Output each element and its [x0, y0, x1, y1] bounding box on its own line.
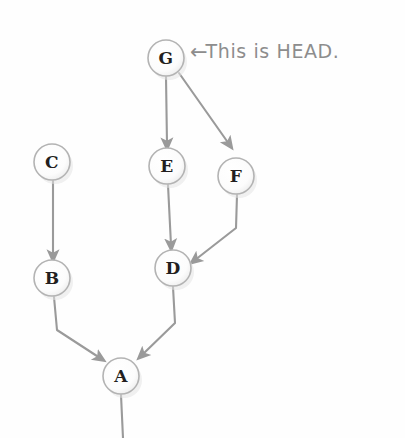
edge-a-tail	[121, 395, 123, 438]
edge-f-to-d	[195, 195, 237, 260]
head-annotation-text: This is HEAD.	[206, 40, 340, 62]
node-a-label: A	[113, 366, 128, 386]
left-arrow-icon: ←	[190, 40, 205, 64]
node-b-label: B	[45, 268, 60, 288]
node-b[interactable]: B	[34, 260, 73, 300]
node-a[interactable]: A	[103, 358, 142, 398]
node-f-label: F	[230, 166, 242, 186]
diagram-canvas: G C E F B	[0, 0, 405, 438]
node-e[interactable]: E	[149, 148, 188, 188]
edge-e-to-d	[168, 185, 171, 245]
edge-g-to-f	[179, 73, 229, 144]
node-g[interactable]: G	[148, 40, 187, 80]
commit-graph: G C E F B	[0, 0, 405, 438]
edge-layer	[53, 73, 237, 438]
node-c-label: C	[45, 152, 59, 172]
node-g-label: G	[159, 48, 174, 68]
node-f[interactable]: F	[218, 158, 257, 198]
edge-g-to-e	[166, 77, 167, 144]
edge-d-to-a	[142, 287, 175, 355]
node-layer: G C E F B	[34, 40, 257, 398]
node-d[interactable]: D	[155, 250, 194, 290]
node-e-label: E	[160, 156, 173, 176]
node-d-label: D	[165, 258, 180, 278]
head-annotation: ←This is HEAD.	[190, 42, 339, 63]
node-c[interactable]: C	[34, 144, 73, 184]
edge-b-to-a	[54, 297, 100, 358]
